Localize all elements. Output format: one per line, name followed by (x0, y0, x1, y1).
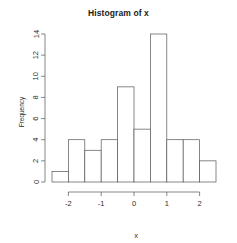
bars-group (52, 34, 216, 182)
y-tick-label: 0 (32, 180, 41, 184)
y-tick-label: 10 (32, 72, 41, 80)
histogram-bar (85, 150, 101, 182)
x-tick-label: 1 (165, 199, 169, 208)
histogram-bar (134, 129, 150, 182)
histogram-bar (200, 161, 216, 182)
x-axis: -2-1012 (65, 192, 202, 208)
histogram-plot: Histogram of x 02468101214 -2-1012 x Fre… (0, 0, 237, 243)
y-axis: 02468101214 (32, 30, 46, 184)
y-tick-label: 2 (32, 159, 41, 163)
x-axis-title: x (134, 231, 138, 240)
histogram-bar (101, 140, 117, 182)
histogram-bar (150, 34, 166, 182)
x-tick-label: -1 (98, 199, 105, 208)
y-tick-label: 4 (32, 138, 41, 142)
histogram-bar (167, 140, 183, 182)
y-tick-label: 14 (32, 30, 41, 38)
x-tick-label: 2 (198, 199, 202, 208)
y-tick-label: 6 (32, 116, 41, 120)
histogram-bar (118, 87, 134, 182)
histogram-bar (68, 140, 84, 182)
plot-canvas: 02468101214 -2-1012 x Frequency (0, 0, 237, 243)
histogram-bar (52, 171, 68, 182)
x-tick-label: 0 (132, 199, 136, 208)
x-tick-label: -2 (65, 199, 72, 208)
y-tick-label: 8 (32, 95, 41, 99)
y-tick-label: 12 (32, 51, 41, 59)
y-axis-title: Frequency (18, 96, 26, 127)
histogram-bar (183, 140, 199, 182)
